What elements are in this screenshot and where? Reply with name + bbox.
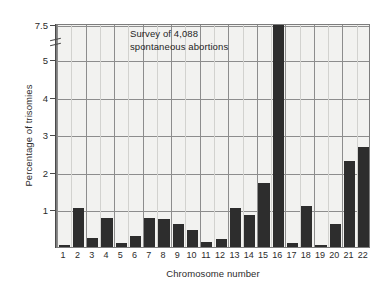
gridline-x-1 (57, 25, 58, 247)
bar-chromosome-22 (358, 147, 369, 247)
gridline-y-1 (57, 211, 369, 212)
bar-chromosome-14 (244, 215, 255, 247)
y-tick-label-1: 1 (8, 205, 48, 216)
bar-chromosome-19 (315, 245, 326, 247)
bar-chromosome-3 (87, 238, 98, 247)
gridline-x-14 (243, 25, 244, 247)
gridline-y-7.5 (57, 26, 369, 27)
gridline-x-6 (128, 25, 129, 247)
y-tick-label-4: 4 (8, 92, 48, 103)
bar-chromosome-6 (130, 236, 141, 247)
gridline-x-12 (214, 25, 215, 247)
bar-chromosome-21 (344, 161, 355, 247)
x-tick-label-10: 10 (187, 250, 197, 260)
gridline-x-17 (285, 25, 286, 247)
x-tick-label-9: 9 (175, 250, 180, 260)
x-tick-label-15: 15 (258, 250, 268, 260)
y-axis-spine (55, 24, 56, 248)
gridline-x-5 (114, 25, 115, 247)
bar-chromosome-10 (187, 230, 198, 247)
y-tick-label-7.5: 7.5 (8, 20, 48, 31)
bar-chromosome-17 (287, 243, 298, 247)
bar-chromosome-7 (144, 218, 155, 247)
gridline-y-2 (57, 174, 369, 175)
bar-chromosome-13 (230, 208, 241, 247)
x-tick-label-3: 3 (89, 250, 94, 260)
bar-chromosome-8 (158, 219, 169, 247)
bar-chromosome-18 (301, 206, 312, 247)
x-tick-label-5: 5 (118, 250, 123, 260)
x-tick-label-21: 21 (344, 250, 354, 260)
x-tick-label-6: 6 (132, 250, 137, 260)
x-tick-label-12: 12 (215, 250, 225, 260)
gridline-y-5 (57, 61, 369, 62)
x-tick-label-2: 2 (75, 250, 80, 260)
plot-area (56, 24, 370, 248)
x-tick-label-17: 17 (286, 250, 296, 260)
gridline-y-4 (57, 99, 369, 100)
bar-chromosome-20 (330, 224, 341, 247)
gridline-y-3 (57, 136, 369, 137)
x-tick-label-16: 16 (272, 250, 282, 260)
bar-chromosome-15 (258, 183, 269, 247)
gridline-x-8 (157, 25, 158, 247)
y-tick-label-3: 3 (8, 130, 48, 141)
x-tick-label-1: 1 (61, 250, 66, 260)
x-tick-label-4: 4 (103, 250, 108, 260)
x-tick-label-8: 8 (161, 250, 166, 260)
bar-chromosome-12 (216, 239, 227, 247)
y-tick-label-5: 5 (8, 55, 48, 66)
gridline-x-3 (86, 25, 87, 247)
gridline-x-11 (200, 25, 201, 247)
x-tick-label-20: 20 (329, 250, 339, 260)
bar-chromosome-16 (273, 24, 284, 247)
gridline-x-19 (314, 25, 315, 247)
x-axis-label: Chromosome number (56, 268, 370, 279)
x-tick-label-19: 19 (315, 250, 325, 260)
x-tick-label-14: 14 (244, 250, 254, 260)
chart-figure: Percentage of trisomies 123457.5 Survey … (0, 0, 390, 286)
bar-chromosome-2 (73, 208, 84, 247)
gridline-x-21 (342, 25, 343, 247)
gridline-x-4 (100, 25, 101, 247)
x-tick-label-7: 7 (146, 250, 151, 260)
gridline-x-9 (171, 25, 172, 247)
y-tick-label-2: 2 (8, 167, 48, 178)
gridline-x-20 (328, 25, 329, 247)
bar-chromosome-11 (201, 242, 212, 247)
x-tick-label-18: 18 (301, 250, 311, 260)
x-tick-label-11: 11 (201, 250, 210, 260)
x-tick-label-13: 13 (229, 250, 239, 260)
gridline-x-10 (185, 25, 186, 247)
x-tick-label-22: 22 (358, 250, 368, 260)
bar-chromosome-4 (101, 218, 112, 247)
bar-chromosome-5 (116, 243, 127, 247)
bar-chromosome-1 (59, 245, 70, 247)
bar-chromosome-9 (173, 224, 184, 247)
gridline-x-7 (143, 25, 144, 247)
chart-annotation: Survey of 4,088 spontaneous abortions (130, 28, 228, 53)
